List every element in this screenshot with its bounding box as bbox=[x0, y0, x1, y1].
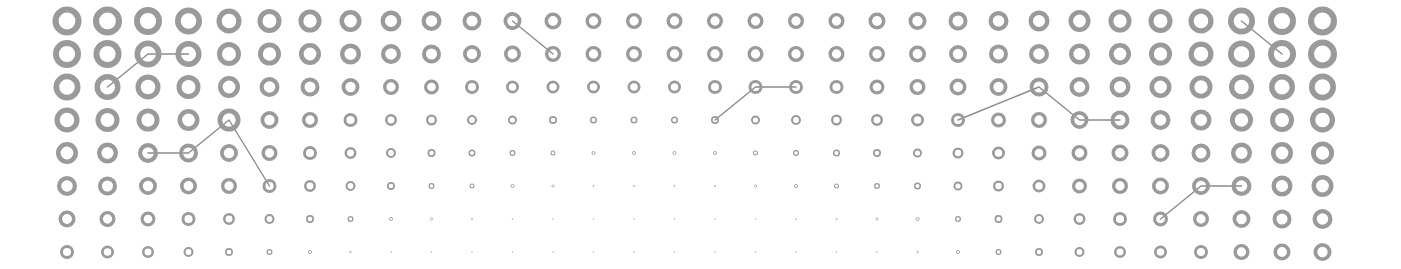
bubble-marker bbox=[836, 252, 837, 253]
bubble-marker bbox=[916, 217, 919, 220]
bubble-marker bbox=[709, 48, 722, 61]
bubble-marker bbox=[1076, 248, 1084, 256]
bubble-marker bbox=[1074, 180, 1086, 192]
bubble-marker bbox=[709, 81, 720, 92]
bubble-marker bbox=[96, 10, 119, 33]
bubble-marker bbox=[871, 48, 884, 61]
bubble-marker bbox=[139, 111, 157, 129]
bubble-marker bbox=[715, 219, 716, 220]
bubble-marker bbox=[509, 116, 516, 123]
bubble-marker bbox=[587, 48, 600, 61]
bubble-marker bbox=[1275, 245, 1288, 258]
bubble-marker bbox=[834, 150, 840, 156]
bubble-marker bbox=[512, 219, 513, 220]
bubble-marker bbox=[593, 252, 594, 253]
bubble-marker bbox=[102, 247, 112, 257]
bubble-grid-chart bbox=[0, 0, 1401, 269]
bubble-marker bbox=[1111, 12, 1129, 30]
bubble-marker bbox=[510, 151, 515, 156]
bubble-marker bbox=[56, 76, 77, 97]
bubble-marker bbox=[262, 113, 276, 127]
bubble-marker bbox=[185, 248, 193, 256]
bubble-marker bbox=[794, 184, 797, 187]
bubble-marker bbox=[1114, 180, 1127, 193]
bubble-marker bbox=[223, 180, 236, 193]
bubble-marker bbox=[874, 150, 880, 156]
bubble-marker bbox=[1195, 246, 1206, 257]
bubble-marker bbox=[431, 252, 432, 253]
bubble-marker bbox=[468, 116, 476, 124]
bubble-marker bbox=[1151, 45, 1169, 63]
bubble-marker bbox=[674, 185, 675, 186]
bubble-marker bbox=[991, 47, 1006, 62]
bubble-marker bbox=[1111, 45, 1128, 62]
bubble-marker bbox=[790, 15, 803, 28]
bubble-marker bbox=[1034, 181, 1044, 191]
bubble-marker bbox=[830, 15, 843, 28]
bubble-marker bbox=[1075, 214, 1084, 223]
bubble-marker bbox=[875, 184, 880, 189]
bubble-marker bbox=[1151, 12, 1170, 31]
bubble-marker bbox=[755, 252, 756, 253]
bubble-marker bbox=[1232, 111, 1250, 129]
bubble-marker bbox=[672, 117, 678, 123]
bubble-marker bbox=[831, 81, 842, 92]
bubble-marker bbox=[951, 14, 966, 29]
bubble-marker bbox=[267, 250, 272, 255]
bubble-marker bbox=[506, 47, 519, 60]
bubble-marker bbox=[592, 151, 595, 154]
bubble-marker bbox=[1031, 13, 1048, 30]
bubble-marker bbox=[96, 43, 118, 65]
bubble-marker bbox=[1314, 177, 1331, 194]
bubble-marker bbox=[307, 216, 313, 222]
bubble-marker bbox=[1155, 247, 1165, 257]
bubble-marker bbox=[141, 179, 155, 193]
bubble-marker bbox=[220, 45, 239, 64]
bubble-marker bbox=[219, 11, 239, 31]
bubble-marker bbox=[1033, 114, 1046, 127]
bubble-marker bbox=[1234, 212, 1248, 226]
bubble-marker bbox=[387, 149, 395, 157]
bubble-marker bbox=[1312, 76, 1333, 97]
bubble-marker bbox=[914, 149, 921, 156]
bubble-marker bbox=[303, 80, 318, 95]
bubble-marker bbox=[910, 14, 924, 28]
bubble-marker bbox=[58, 144, 75, 161]
bubble-marker bbox=[836, 218, 837, 219]
bubble-marker bbox=[305, 181, 314, 190]
bubble-marker bbox=[995, 216, 1001, 222]
bubble-marker bbox=[100, 179, 115, 194]
bubble-marker bbox=[552, 185, 554, 187]
bubble-marker bbox=[471, 218, 472, 219]
bubble-marker bbox=[424, 13, 440, 29]
bubble-marker bbox=[1273, 111, 1292, 130]
bubble-marker bbox=[911, 81, 924, 94]
bubble-marker bbox=[634, 219, 635, 220]
bubble-marker bbox=[1071, 12, 1088, 29]
bubble-marker bbox=[796, 252, 797, 253]
bubble-marker bbox=[350, 251, 352, 253]
bubble-marker bbox=[587, 15, 600, 28]
bubble-marker bbox=[752, 116, 759, 123]
bubble-marker bbox=[956, 217, 961, 222]
bubble-marker bbox=[178, 10, 199, 31]
bubble-marker bbox=[1192, 78, 1210, 96]
bubble-marker bbox=[348, 217, 353, 222]
bubble-marker bbox=[754, 185, 756, 187]
bubble-marker bbox=[1311, 10, 1334, 33]
bubble-marker bbox=[755, 219, 756, 220]
bubble-marker bbox=[629, 82, 639, 92]
bubble-marker bbox=[1072, 79, 1088, 95]
bubble-marker bbox=[386, 115, 395, 124]
bubble-marker bbox=[143, 247, 152, 256]
bubble-marker bbox=[912, 115, 922, 125]
bubble-marker bbox=[954, 149, 963, 158]
bubble-marker bbox=[347, 182, 355, 190]
bubble-marker bbox=[507, 82, 517, 92]
bubble-marker bbox=[512, 252, 513, 253]
bubble-marker bbox=[631, 117, 637, 123]
bubble-marker bbox=[796, 219, 797, 220]
bubble-marker bbox=[1315, 245, 1329, 259]
bubble-marker bbox=[469, 150, 475, 156]
bubble-marker bbox=[301, 45, 318, 62]
